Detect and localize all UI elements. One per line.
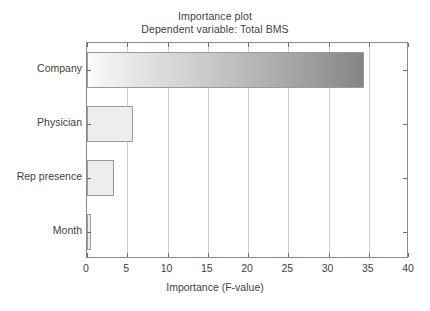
x-axis-title: Importance (F-value) [0,281,430,293]
bar-rep-presence [87,160,114,196]
y-axis-tick [87,124,91,125]
x-axis-tick-top [369,43,370,47]
x-gridline [369,43,370,257]
x-axis-tick-top [248,43,249,47]
x-axis-label-35: 35 [348,262,388,274]
x-axis-tick-top [168,43,169,47]
x-axis-label-30: 30 [308,262,348,274]
y-axis-tick-right [403,178,407,179]
x-axis-tick [408,253,409,257]
chart-subtitle: Dependent variable: Total BMS [0,23,430,36]
y-axis-tick-right [403,70,407,71]
x-axis-tick-top [208,43,209,47]
y-axis-label-physician: Physician [0,116,82,128]
plot-area [86,42,408,258]
x-axis-tick-top [127,43,128,47]
x-axis-tick [168,253,169,257]
x-axis-tick [248,253,249,257]
chart-title-block: Importance plot Dependent variable: Tota… [0,10,430,36]
x-axis-label-15: 15 [187,262,227,274]
x-axis-tick-top [288,43,289,47]
x-axis-label-5: 5 [106,262,146,274]
y-axis-tick [87,232,91,233]
x-axis-label-10: 10 [147,262,187,274]
chart-title: Importance plot [0,10,430,23]
y-axis-tick-right [403,232,407,233]
x-axis-tick [87,253,88,257]
x-axis-label-40: 40 [388,262,428,274]
y-axis-label-company: Company [0,62,82,74]
x-axis-label-20: 20 [227,262,267,274]
x-axis-tick-top [87,43,88,47]
y-axis-label-month: Month [0,224,82,236]
x-axis-tick-top [329,43,330,47]
y-axis-label-rep-presence: Rep presence [0,170,82,182]
x-axis-tick-top [408,43,409,47]
x-axis-tick [127,253,128,257]
x-axis-label-0: 0 [66,262,106,274]
bar-company [87,52,364,88]
y-axis-tick-right [403,124,407,125]
importance-plot-figure: Importance plot Dependent variable: Tota… [0,0,430,311]
x-axis-tick [288,253,289,257]
x-axis-label-25: 25 [267,262,307,274]
x-axis-tick [369,253,370,257]
x-axis-tick [208,253,209,257]
bar-physician [87,106,133,142]
x-axis-tick [329,253,330,257]
y-axis-tick [87,70,91,71]
y-axis-tick [87,178,91,179]
